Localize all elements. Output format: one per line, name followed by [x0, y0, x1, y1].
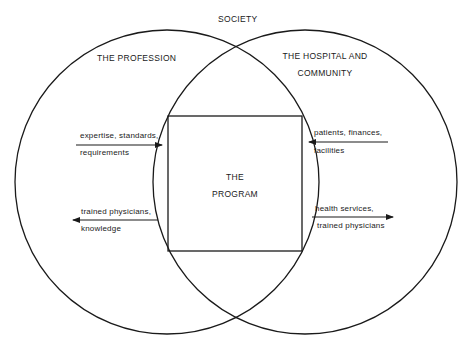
- hospital-community-line2: COMMUNITY: [275, 68, 375, 78]
- flow-patients-line1: patients, finances,: [314, 128, 382, 138]
- profession-label: THE PROFESSION: [97, 53, 176, 63]
- hospital-community-label: THE HOSPITAL AND COMMUNITY: [275, 51, 375, 78]
- flow-health-services-line2: trained physicians: [317, 221, 385, 231]
- program-line2: PROGRAM: [195, 189, 275, 199]
- flow-expertise-line2: requirements: [80, 148, 129, 158]
- flow-patients-line2: facilities: [314, 146, 344, 156]
- flow-trained-physicians-line1: trained physicians,: [81, 207, 151, 217]
- program-line1: THE: [195, 172, 275, 182]
- flow-health-services-line1: health services,: [315, 204, 374, 214]
- society-label: SOCIETY: [218, 14, 257, 24]
- program-label: THE PROGRAM: [195, 172, 275, 199]
- flow-trained-physicians-line2: knowledge: [81, 224, 121, 234]
- flow-expertise-line1: expertise, standards,: [80, 131, 158, 141]
- hospital-community-line1: THE HOSPITAL AND: [275, 51, 375, 61]
